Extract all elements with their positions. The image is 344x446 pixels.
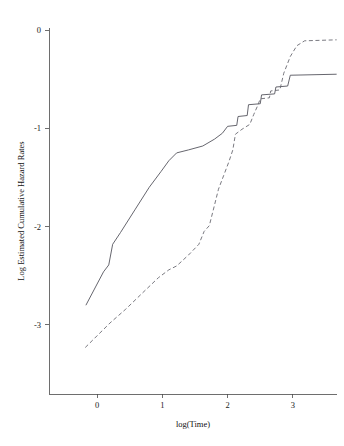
hazard-rate-chart-figure: 0-1-2-3 0123 log(Time) Log Estimated Cum…	[0, 0, 344, 446]
x-tick-label: 0	[95, 400, 99, 410]
y-tick-label: 0	[37, 25, 41, 35]
x-tick-label: 3	[291, 400, 295, 410]
x-axis-title: log(Time)	[176, 419, 210, 429]
chart-series-group	[85, 40, 336, 348]
y-tick-label: -2	[34, 222, 41, 232]
x-tick-label: 2	[225, 400, 229, 410]
y-tick-label: -1	[34, 123, 41, 133]
y-axis-ticks: 0-1-2-3	[34, 25, 49, 330]
series-line-dashed-curve	[85, 40, 336, 348]
x-tick-label: 1	[160, 400, 164, 410]
y-axis-title: Log Estimated Cumulative Hazard Rates	[16, 141, 26, 280]
x-axis-ticks: 0123	[95, 394, 295, 410]
chart-plot-area: 0-1-2-3 0123 log(Time) Log Estimated Cum…	[0, 0, 344, 446]
series-line-solid-curve	[86, 74, 337, 305]
y-tick-label: -3	[34, 320, 41, 330]
